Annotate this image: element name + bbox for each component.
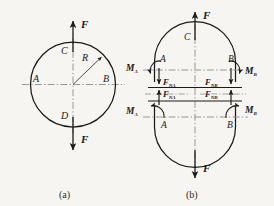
panel-a-force-bottom-label: F: [80, 133, 89, 145]
panel-a-force-top-label: F: [80, 18, 89, 30]
panel-a-point-c-label: C: [61, 45, 68, 56]
panel-b-top-normal-left-label: FNA: [162, 77, 176, 88]
panel-b-bottom-point-a-label: A: [160, 120, 167, 130]
panel-a-point-a-label: A: [32, 73, 40, 84]
figure-page: F F C D A B R (a): [0, 0, 274, 206]
panel-b-bottom-moment-left-label: MA: [125, 106, 138, 117]
panel-b-bottom-normal-right-label: FNB: [204, 89, 218, 100]
panel-b-force-bottom-label: F: [202, 162, 211, 174]
panel-b-bottom-moment-left-arc: [151, 106, 164, 118]
panel-a-point-b-label: B: [103, 73, 109, 84]
panel-b-caption: (b): [186, 189, 198, 201]
panel-b-top-point-b-label: B: [228, 54, 234, 64]
panel-b-top-point-a-label: A: [159, 54, 166, 64]
figure-canvas: F F C D A B R (a): [0, 0, 274, 206]
panel-b-bottom-normal-left-label: FNA: [162, 89, 176, 100]
panel-b-top-moment-right-label: MB: [244, 66, 257, 77]
panel-a-radius-label: R: [81, 52, 88, 63]
panel-b-force-top-label: F: [202, 9, 211, 21]
panel-b-apex-c-label: C: [184, 32, 191, 42]
panel-a: F F C D A B R (a): [22, 18, 125, 201]
panel-a-point-d-label: D: [60, 110, 69, 121]
panel-b-top-moment-left-label: MA: [125, 63, 138, 74]
panel-b-bottom-point-b-label: B: [227, 120, 233, 130]
panel-b-top-normal-right-label: FNB: [204, 77, 218, 88]
panel-b: F F FNA FNB MA MB: [125, 9, 257, 201]
panel-a-caption: (a): [59, 189, 70, 201]
panel-b-bottom-moment-right-label: MB: [244, 105, 257, 116]
panel-b-bottom-moment-right-arc: [226, 106, 239, 118]
